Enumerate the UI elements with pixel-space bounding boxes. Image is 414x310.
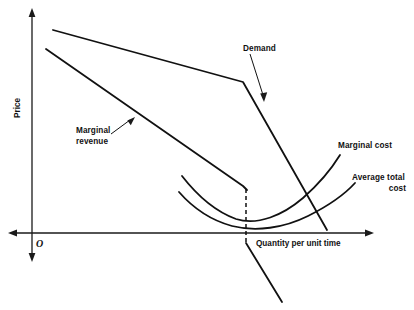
- demand-label: Demand: [243, 44, 276, 53]
- y-axis-up-arrow-icon: [29, 8, 36, 17]
- demand-leader-arrow-icon: [260, 92, 267, 102]
- axes-group: [8, 8, 374, 262]
- x-axis-right-arrow-icon: [365, 230, 374, 237]
- x-axis-label: Quantity per unit time: [256, 239, 341, 248]
- x-axis-left-arrow-icon: [8, 230, 17, 237]
- average-total-cost-label-line2: cost: [389, 184, 406, 193]
- marginal-revenue-label-line2: revenue: [76, 137, 108, 146]
- average-total-cost-label-line1: Average total: [352, 173, 405, 182]
- marginal-revenue-label-line1: Marginal: [76, 126, 110, 135]
- demand-leader-line: [250, 54, 263, 95]
- average-total-cost-curve: [179, 183, 355, 229]
- y-axis-down-arrow-icon: [29, 253, 36, 262]
- marginal-revenue-leader-line: [111, 120, 130, 134]
- marginal-revenue-leader-arrow-icon: [127, 117, 135, 125]
- y-axis-label: Price: [13, 98, 22, 118]
- marginal-revenue-curve: [46, 49, 247, 190]
- origin-label: O: [36, 238, 43, 249]
- marginal-revenue-lower-segment: [246, 243, 282, 302]
- diagram-canvas: Price Quantity per unit time O Demand Ma…: [0, 0, 414, 310]
- marginal-cost-label: Marginal cost: [338, 141, 392, 150]
- economics-diagram: Price Quantity per unit time O Demand Ma…: [0, 0, 414, 310]
